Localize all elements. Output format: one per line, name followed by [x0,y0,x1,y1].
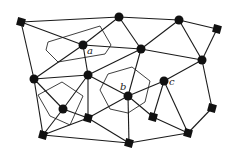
node-label-c: c [169,77,175,87]
graph-diagram: a b c [0,0,237,153]
edge-n3-n7 [179,20,202,60]
edge-b-n13 [88,96,128,118]
edge-c-n14 [153,81,164,117]
edge-n1-a [21,22,83,45]
circle-node-icon [59,105,68,114]
edge-a-n8 [34,45,83,79]
edge-b-c [128,81,164,96]
edge-n8-n9 [34,75,88,79]
edge-n7-n15 [202,60,212,108]
edge-n9-n12 [63,75,88,109]
edge-n14-n17 [153,117,188,133]
graph-edges [21,17,217,143]
circle-node-icon [115,13,124,22]
edge-n1-n8 [21,22,34,79]
circle-node-icon [175,16,184,25]
edge-n16-n18 [43,135,129,143]
square-node-icon [124,138,134,148]
circle-node-icon [198,56,207,65]
edge-n17-n15 [188,108,212,133]
edge-c-n17 [164,81,188,133]
edge-n2-n6 [119,17,141,49]
square-node-icon [16,17,26,27]
edge-b-n18 [128,96,129,143]
graph-nodes [16,13,222,148]
edge-n3-n4 [179,20,217,29]
edge-n18-n17 [129,133,188,143]
node-label-a: a [87,46,93,56]
edge-n2-n3 [119,17,179,20]
node-label-b: b [120,82,126,92]
edge-n6-n7 [141,49,202,60]
circle-node-icon [30,75,39,84]
edge-n3-n6 [141,20,179,49]
edge-b-n14 [128,96,153,117]
edge-n6-n9 [88,49,141,75]
cell-n12-polygon [38,82,83,125]
square-node-icon [38,130,48,140]
circle-node-icon [84,71,93,80]
circle-node-icon [160,77,169,86]
circle-node-icon [137,45,146,54]
graph-canvas [0,0,237,153]
edge-n2-a [83,17,119,45]
edge-n4-n7 [202,29,217,60]
circle-node-icon [124,92,133,101]
edge-n1-n2 [21,17,119,22]
square-node-icon [83,113,93,123]
square-node-icon [212,24,222,34]
